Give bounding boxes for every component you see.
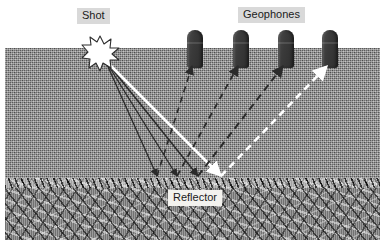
shot-starburst-icon <box>82 36 119 71</box>
diagram-scene: Shot Geophones Reflector <box>5 0 380 240</box>
ray-down-3 <box>105 60 198 176</box>
ray-up-2 <box>177 66 238 176</box>
geophones-label: Geophones <box>238 7 305 23</box>
ray-up-3 <box>198 66 283 176</box>
reflector-label: Reflector <box>168 190 222 206</box>
ray-up-4 <box>221 66 327 176</box>
seismic-survey-figure: Shot Geophones Reflector <box>0 0 388 248</box>
downgoing-rays <box>105 60 221 176</box>
ray-down-4 <box>105 60 221 176</box>
ray-down-1 <box>105 60 157 176</box>
ray-up-1 <box>157 66 192 176</box>
shot-label: Shot <box>77 8 110 24</box>
upgoing-rays <box>157 66 327 176</box>
ray-down-2 <box>105 60 177 176</box>
